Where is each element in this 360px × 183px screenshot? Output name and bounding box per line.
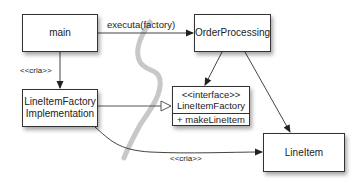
interface-stereotype: <<interface>> [173,89,249,100]
edge-impl-to-lineitem [95,127,262,153]
interface-line-item-factory[interactable]: <<interface>> LineItemFactory + makeLine… [172,86,250,126]
boundary-squiggle [124,22,160,158]
interface-operation: + makeLineItem [173,114,249,126]
class-main[interactable]: main [22,14,98,52]
edge-orderprocessing-to-interface [205,52,222,85]
class-line-item[interactable]: LineItem [263,133,345,172]
edge-orderprocessing-to-lineitem [245,52,290,132]
class-line-item-factory-implementation[interactable]: LineItemFactory Implementation [22,89,98,127]
interface-name: LineItemFactory [173,100,249,111]
edge-label-cria-main-impl: <<cria>> [20,66,52,75]
edge-label-executa-factory: executa(factory) [107,19,175,30]
interface-header: <<interface>> LineItemFactory [173,87,249,114]
edge-label-cria-impl-lineitem: <<cria>> [170,154,202,163]
factory-impl-label-line2: Implementation [26,108,94,120]
class-order-processing-label: OrderProcessing [195,27,270,39]
class-order-processing[interactable]: OrderProcessing [194,14,271,52]
class-line-item-label: LineItem [285,147,323,159]
class-main-label: main [49,27,71,39]
factory-impl-label-line1: LineItemFactory [24,96,96,108]
